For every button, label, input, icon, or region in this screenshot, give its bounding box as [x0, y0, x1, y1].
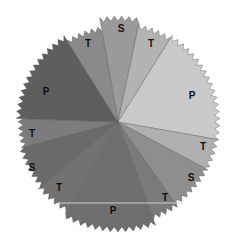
sector-label: T	[148, 39, 154, 49]
sector-label: T	[200, 142, 206, 152]
sector-label: T	[162, 193, 168, 203]
sector-label: T	[29, 129, 35, 139]
sector-label: T	[56, 183, 62, 193]
sector-label: P	[110, 206, 117, 216]
sector-label: S	[188, 173, 195, 183]
sector-label: S	[29, 163, 36, 173]
sector-label: S	[118, 24, 125, 34]
sector-label: P	[189, 91, 196, 101]
sector-label: T	[85, 39, 91, 49]
sector-label: P	[43, 87, 50, 97]
